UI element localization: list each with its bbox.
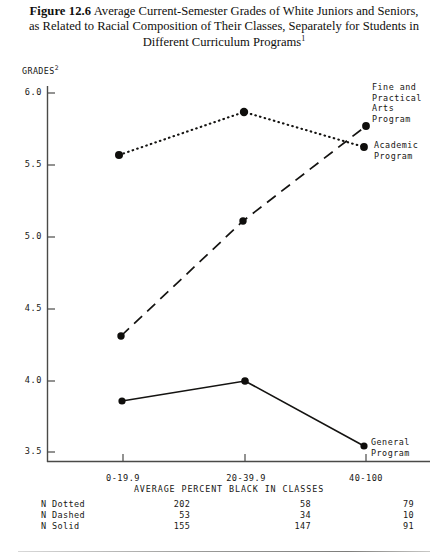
chart-plot-area bbox=[0, 0, 448, 560]
n-row-label-solid: N Solid bbox=[41, 521, 120, 532]
data-point-general-1 bbox=[241, 377, 249, 385]
data-point-fpa-0 bbox=[117, 332, 124, 339]
n-dotted-0-19-9: 202 bbox=[120, 499, 213, 510]
chart-figure: GRADES2 6.0 5.5 5.0 4.5 4.0 3.5 0-19.9 2… bbox=[0, 0, 448, 560]
n-dashed-0-19-9: 53 bbox=[120, 510, 213, 521]
n-counts-table: N Dotted 202 58 79 N Dashed 53 34 10 N S… bbox=[0, 499, 448, 533]
n-row-label-dotted: N Dotted bbox=[41, 499, 120, 510]
data-point-academic-1 bbox=[240, 108, 248, 116]
n-solid-20-39-9: 147 bbox=[212, 521, 341, 532]
n-dotted-20-39-9: 58 bbox=[212, 499, 341, 510]
data-point-general-0 bbox=[118, 397, 125, 404]
page-bottom-rule bbox=[18, 551, 430, 552]
series-academic-line bbox=[119, 112, 364, 155]
table-row: N Dotted 202 58 79 bbox=[41, 499, 448, 510]
series-academic-dotted bbox=[115, 108, 368, 159]
series-fine-and-practical-arts-dashed bbox=[117, 122, 370, 340]
n-dashed-40-100: 10 bbox=[341, 510, 448, 521]
n-dotted-40-100: 79 bbox=[341, 499, 448, 510]
n-solid-0-19-9: 155 bbox=[120, 521, 213, 532]
table-row: N Solid 155 147 91 bbox=[41, 521, 448, 532]
data-point-academic-2 bbox=[360, 143, 368, 151]
n-solid-40-100: 91 bbox=[341, 521, 448, 532]
n-dashed-20-39-9: 34 bbox=[212, 510, 341, 521]
n-row-label-dashed: N Dashed bbox=[41, 510, 120, 521]
series-general-line bbox=[122, 381, 364, 446]
series-general-solid bbox=[118, 377, 367, 449]
data-point-fpa-1 bbox=[239, 217, 246, 224]
table-row: N Dashed 53 34 10 bbox=[41, 510, 448, 521]
data-point-academic-0 bbox=[115, 151, 123, 159]
data-point-fpa-2 bbox=[362, 122, 370, 130]
data-point-general-2 bbox=[360, 442, 367, 449]
series-fine-and-practical-arts-line bbox=[121, 126, 366, 336]
